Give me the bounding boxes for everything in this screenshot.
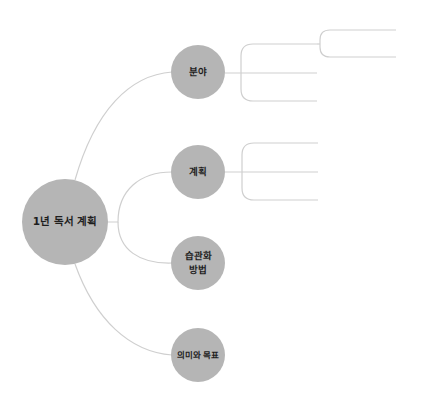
connector-root-field: [75, 72, 172, 180]
node-habit-method-label: 습관화 방법: [185, 249, 212, 277]
node-plan[interactable]: 계획: [171, 145, 225, 199]
connector-root-goal: [75, 264, 172, 355]
node-habit-method[interactable]: 습관화 방법: [171, 236, 225, 290]
node-field-label: 분야: [189, 65, 207, 79]
node-plan-label: 계획: [189, 165, 207, 179]
node-meaning-goal[interactable]: 의미와 목표: [171, 328, 225, 382]
root-node-label: 1년 독서 계획: [33, 214, 98, 229]
connector-root-habit: [118, 222, 172, 263]
root-node[interactable]: 1년 독서 계획: [22, 179, 108, 265]
node-field[interactable]: 분야: [171, 45, 225, 99]
connector-root-plan: [108, 172, 172, 222]
node-meaning-goal-label: 의미와 목표: [177, 349, 220, 361]
